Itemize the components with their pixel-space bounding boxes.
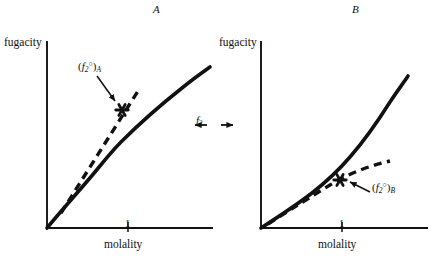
panel-a-annotation-arrow: [97, 76, 115, 101]
panel-a-x-tick-label: 1: [125, 218, 130, 229]
panel-a: [47, 41, 213, 232]
panel-b-y-axis-label: fugacity: [219, 36, 257, 48]
panel-b-fugacity-curve: [261, 76, 408, 228]
component-subscript: 2: [199, 119, 203, 128]
panel-a-standard-state-marker: [116, 105, 128, 116]
panel-b-x-axis-label: molality: [318, 238, 356, 250]
panel-b-standard-state-marker: [334, 175, 346, 186]
panel-a-y-axis-label: fugacity: [4, 36, 42, 48]
figure-canvas: [0, 0, 434, 263]
panel-b-standard-state-label: (f2○)B: [372, 181, 395, 195]
fugacity-molality-figure: A B fugacity fugacity molality molality …: [0, 0, 434, 263]
interpanel-fugacity-label: f2: [196, 114, 203, 128]
panel-b-x-tick-label: 1: [339, 218, 344, 229]
panel-subscript: B: [390, 186, 395, 195]
panel-a-standard-state-label: (f2○)A: [78, 60, 101, 74]
panel-a-fugacity-curve: [47, 67, 210, 228]
panel-subscript: A: [96, 65, 101, 74]
panel-a-x-axis-label: molality: [104, 238, 142, 250]
panel-b-title: B: [352, 3, 359, 15]
panel-a-title: A: [153, 3, 160, 15]
panel-b: [261, 41, 428, 232]
panel-b-annotation-arrow: [350, 182, 370, 192]
